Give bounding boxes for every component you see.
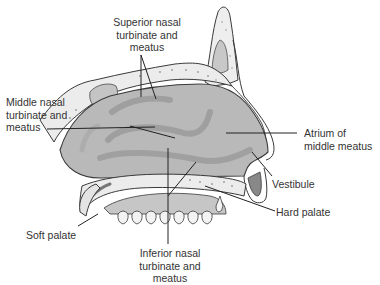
leader-soft-palate xyxy=(78,214,98,226)
label-superior-turbinate: Superior nasal turbinate and meatus xyxy=(104,16,190,54)
label-middle-turbinate: Middle nasal turbinate and meatus xyxy=(6,96,67,134)
label-line: middle meatus xyxy=(304,140,372,153)
label-line: turbinate and xyxy=(104,29,190,42)
label-line: Atrium of xyxy=(304,127,372,140)
label-line: meatus xyxy=(6,121,67,134)
label-line: Vestibule xyxy=(272,178,315,191)
label-line: turbinate and xyxy=(6,109,67,122)
label-vestibule: Vestibule xyxy=(272,178,315,191)
label-atrium-middle-meatus: Atrium of middle meatus xyxy=(304,127,372,152)
label-line: Middle nasal xyxy=(6,96,67,109)
label-line: meatus xyxy=(128,272,212,285)
label-soft-palate: Soft palate xyxy=(26,229,76,242)
label-line: turbinate and xyxy=(128,260,212,273)
label-inferior-turbinate: Inferior nasal turbinate and meatus xyxy=(128,247,212,285)
label-hard-palate: Hard palate xyxy=(276,206,330,219)
label-line: meatus xyxy=(104,41,190,54)
label-line: Soft palate xyxy=(26,229,76,242)
label-line: Hard palate xyxy=(276,206,330,219)
vestibule-structure xyxy=(244,168,267,203)
nasal-anatomy-diagram: Superior nasal turbinate and meatus Midd… xyxy=(0,0,380,285)
label-line: Superior nasal xyxy=(104,16,190,29)
label-line: Inferior nasal xyxy=(128,247,212,260)
